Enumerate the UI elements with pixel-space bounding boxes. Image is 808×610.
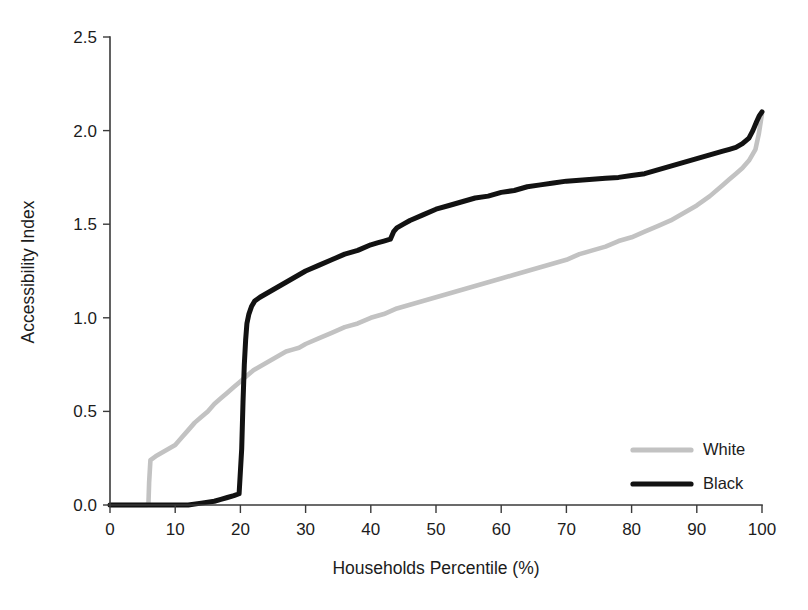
legend-label-black: Black <box>703 474 744 492</box>
y-tick-layer: 0.00.51.01.52.02.5 <box>73 28 110 515</box>
y-tick-label: 0.5 <box>73 402 97 421</box>
chart-page: 0.00.51.01.52.02.5 010203040506070809010… <box>0 0 808 610</box>
x-tick-label: 60 <box>492 520 511 539</box>
y-tick-label: 2.0 <box>73 122 97 141</box>
x-tick-label: 50 <box>427 520 446 539</box>
y-tick-label: 1.5 <box>73 215 97 234</box>
legend-label-white: White <box>703 440 745 458</box>
x-tick-label: 0 <box>105 520 114 539</box>
series-line-white <box>110 114 762 505</box>
x-tick-label: 70 <box>557 520 576 539</box>
x-tick-label: 20 <box>231 520 250 539</box>
x-tick-label: 30 <box>296 520 315 539</box>
accessibility-index-line-chart: 0.00.51.01.52.02.5 010203040506070809010… <box>0 0 808 610</box>
x-tick-label: 90 <box>687 520 706 539</box>
x-tick-layer: 0102030405060708090100 <box>105 505 776 539</box>
x-tick-label: 100 <box>748 520 776 539</box>
series-layer <box>110 112 762 505</box>
series-line-black <box>110 112 762 505</box>
chart-legend: WhiteBlack <box>633 440 745 492</box>
y-tick-label: 1.0 <box>73 309 97 328</box>
x-axis-title: Households Percentile (%) <box>332 558 539 578</box>
x-tick-label: 10 <box>166 520 185 539</box>
x-tick-label: 80 <box>622 520 641 539</box>
x-tick-label: 40 <box>361 520 380 539</box>
y-tick-label: 0.0 <box>73 496 97 515</box>
axis-layer <box>110 37 762 505</box>
y-axis-title: Accessibility Index <box>18 200 38 343</box>
y-tick-label: 2.5 <box>73 28 97 47</box>
